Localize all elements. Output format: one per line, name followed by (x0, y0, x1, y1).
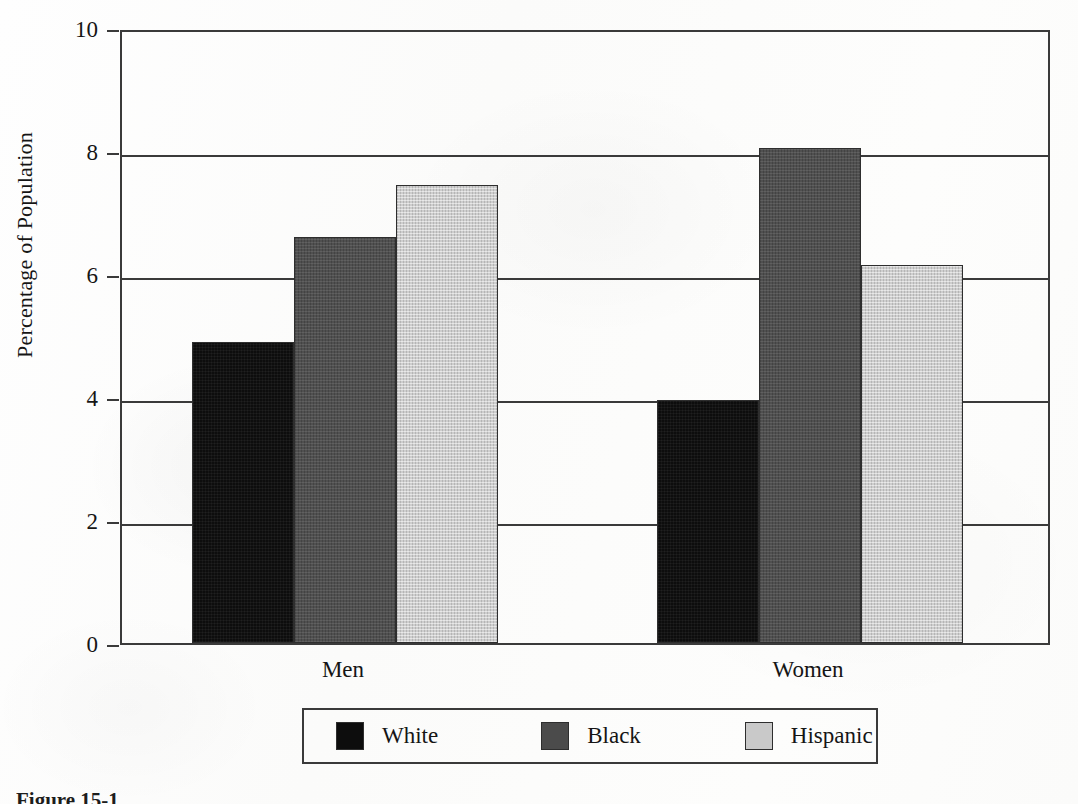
legend-label: White (382, 723, 438, 749)
y-axis-tick-label: 8 (87, 141, 99, 164)
x-axis-tick-label: Women (708, 657, 908, 683)
y-axis-tick-label: 10 (75, 18, 98, 41)
plot-area (120, 30, 1050, 645)
bar-men-black (294, 237, 396, 643)
y-axis-tick-mark (107, 645, 119, 647)
legend-swatch-white (336, 722, 364, 750)
bar-women-hispanic (861, 265, 963, 643)
y-axis-tick-mark (107, 522, 119, 524)
y-axis-tick-label: 4 (87, 387, 99, 410)
chart-legend: WhiteBlackHispanic (302, 708, 878, 764)
x-axis-tick-label: Men (243, 657, 443, 683)
y-axis-tick-label: 2 (87, 510, 99, 533)
y-axis-title: Percentage of Population (12, 55, 38, 435)
legend-entry-black: Black (541, 722, 641, 750)
page-background: Percentage of Population 1086420 MenWome… (0, 0, 1078, 804)
y-axis-tick-mark (107, 276, 119, 278)
legend-entry-hispanic: Hispanic (745, 722, 873, 750)
figure-caption: Figure 15-1 (16, 788, 119, 804)
y-axis-tick-mark (107, 399, 119, 401)
legend-label: Hispanic (791, 723, 873, 749)
gridline (122, 155, 1048, 157)
y-axis-tick-mark (107, 30, 119, 32)
bar-men-hispanic (396, 185, 498, 643)
legend-entry-white: White (336, 722, 438, 750)
bar-women-white (657, 400, 759, 643)
legend-swatch-hispanic (745, 722, 773, 750)
legend-label: Black (587, 723, 641, 749)
y-axis-tick-label: 6 (87, 264, 99, 287)
y-axis-tick-mark (107, 153, 119, 155)
legend-swatch-black (541, 722, 569, 750)
bar-women-black (759, 148, 861, 643)
y-axis-tick-label: 0 (87, 633, 99, 656)
bar-men-white (192, 342, 294, 643)
